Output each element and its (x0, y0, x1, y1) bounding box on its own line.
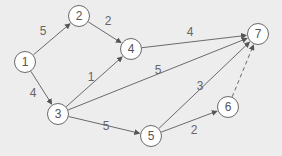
edge-weight-1-2: 5 (40, 24, 47, 38)
edge-6-7 (232, 45, 253, 97)
edge-5-6 (161, 111, 216, 132)
edge-weight-5-6: 2 (191, 123, 198, 137)
edge-weight-3-4: 1 (88, 70, 95, 84)
node-1: 1 (14, 51, 36, 73)
graph-diagram: 542145532 1234567 (0, 0, 282, 156)
edge-weight-5-7: 3 (197, 79, 204, 93)
node-2: 2 (68, 5, 90, 27)
node-7: 7 (247, 23, 269, 45)
edge-weight-4-7: 4 (187, 25, 194, 39)
edge-weight-2-4: 2 (105, 14, 112, 28)
edge-weight-1-3: 4 (30, 86, 37, 100)
edge-weight-3-5: 5 (103, 119, 110, 133)
node-4: 4 (120, 38, 142, 60)
edge-weight-3-7: 5 (155, 63, 162, 77)
node-3: 3 (47, 103, 69, 125)
node-6: 6 (217, 96, 239, 118)
node-5: 5 (140, 125, 162, 147)
edge-4-7 (142, 35, 246, 47)
